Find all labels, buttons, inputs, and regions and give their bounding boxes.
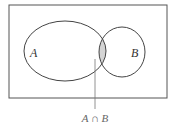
venn-diagram: A B A ∩ B xyxy=(0,0,176,131)
set-a-label: A xyxy=(29,46,38,60)
set-b-label: B xyxy=(131,46,139,60)
intersection-label: A ∩ B xyxy=(81,112,109,124)
